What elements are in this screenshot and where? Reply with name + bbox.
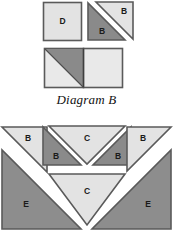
piece-b-center-left-label: B: [53, 151, 59, 161]
assembled-right-square: [84, 49, 123, 88]
piece-b-dark-label: B: [99, 26, 105, 36]
piece-d-label: D: [59, 16, 65, 26]
piece-c-lower-label: C: [84, 186, 90, 196]
piece-c-upper-label: C: [84, 133, 90, 143]
piece-e-right-label: E: [145, 199, 151, 209]
piece-e-left-label: E: [23, 199, 29, 209]
piece-b-bottom-left-outer-label: B: [25, 133, 31, 143]
piece-b-light-label: B: [121, 6, 127, 16]
diagram-b-figure: D B B B B B C B: [0, 0, 173, 232]
piece-b-bottom-right-outer-label: B: [140, 133, 146, 143]
figure-caption: Diagram B: [0, 92, 173, 108]
diagram-canvas: D B B B B B C B: [0, 0, 173, 232]
piece-b-center-right-label: B: [115, 151, 121, 161]
